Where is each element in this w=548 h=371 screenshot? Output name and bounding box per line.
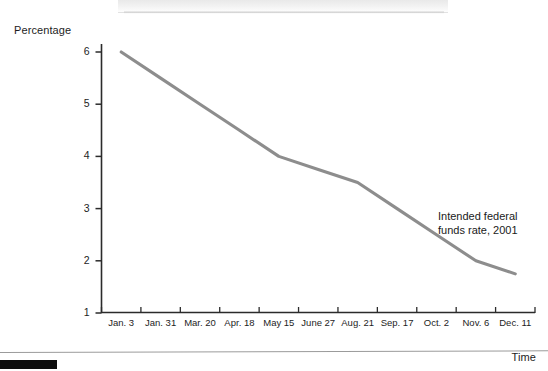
chart-figure: Percentage Time 123456 Jan. 3Jan. 31Mar.… <box>0 0 548 371</box>
series-annotation-line-2: funds rate, 2001 <box>438 224 518 238</box>
x-tick-label: Nov. 6 <box>462 317 489 328</box>
series-line-intended-federal-funds-rate <box>121 52 515 274</box>
data-series-group <box>121 52 515 274</box>
y-tick-label: 1 <box>68 306 90 318</box>
x-tick-label: Jan. 31 <box>145 317 176 328</box>
y-tick-label: 3 <box>68 202 90 214</box>
y-tick-label: 6 <box>68 45 90 57</box>
footer-black-bar <box>0 360 57 369</box>
x-tick-label: Dec. 11 <box>499 317 531 328</box>
y-tick-label: 5 <box>68 97 90 109</box>
x-tick-label: Oct. 2 <box>424 317 449 328</box>
x-tick-label: Sep. 17 <box>381 317 414 328</box>
x-tick-label: Jan. 3 <box>108 317 134 328</box>
y-tick-label: 4 <box>68 149 90 161</box>
y-axis-ticks <box>96 52 102 313</box>
axes <box>101 44 535 313</box>
x-tick-label: Aug. 21 <box>341 317 374 328</box>
x-tick-label: June 27 <box>301 317 335 328</box>
x-tick-label: Apr. 18 <box>224 317 254 328</box>
x-tick-label: May 15 <box>263 317 294 328</box>
x-tick-label: Mar. 20 <box>184 317 216 328</box>
series-annotation-line-1: Intended federal <box>438 210 518 224</box>
y-tick-label: 2 <box>68 254 90 266</box>
series-annotation: Intended federal funds rate, 2001 <box>438 210 518 237</box>
